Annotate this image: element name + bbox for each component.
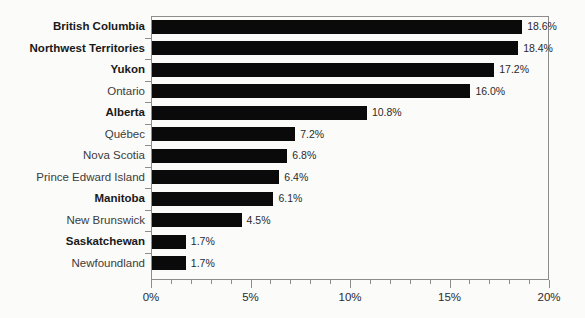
bar-value-label: 18.6%	[522, 16, 557, 38]
bar-row: Nova Scotia6.8%	[0, 145, 585, 167]
bar	[152, 235, 186, 249]
x-axis-minor-tick	[529, 280, 530, 284]
bar-value-label: 17.2%	[494, 59, 529, 81]
category-label: Yukon	[0, 59, 145, 81]
x-axis-minor-tick	[211, 280, 212, 284]
x-axis-tick-label: 0%	[143, 291, 160, 303]
bar-value-label: 6.4%	[279, 167, 308, 189]
x-axis-major-tick	[251, 280, 252, 288]
x-axis-minor-tick	[489, 280, 490, 284]
bar-row: Prince Edward Island6.4%	[0, 167, 585, 189]
x-axis-minor-tick	[171, 280, 172, 284]
bar-row: British Columbia18.6%	[0, 16, 585, 38]
bar-row: Northwest Territories18.4%	[0, 38, 585, 60]
category-label: Northwest Territories	[0, 38, 145, 60]
bar-row: Ontario16.0%	[0, 81, 585, 103]
x-axis-minor-tick	[469, 280, 470, 284]
bar	[152, 213, 242, 227]
x-axis-minor-tick	[390, 280, 391, 284]
category-label: New Brunswick	[0, 210, 145, 232]
bar-row: New Brunswick4.5%	[0, 210, 585, 232]
x-axis-minor-tick	[270, 280, 271, 284]
bar-value-label: 4.5%	[242, 210, 271, 232]
bar-row: Saskatchewan1.7%	[0, 231, 585, 253]
bar-row: Yukon17.2%	[0, 59, 585, 81]
bar	[152, 84, 470, 98]
x-axis-minor-tick	[330, 280, 331, 284]
category-label: Alberta	[0, 102, 145, 124]
bar-row: Alberta10.8%	[0, 102, 585, 124]
bar-value-label: 6.8%	[287, 145, 316, 167]
x-axis-tick-label: 15%	[438, 291, 461, 303]
bar-value-label: 1.7%	[186, 253, 215, 275]
category-label: British Columbia	[0, 16, 145, 38]
category-label: Ontario	[0, 81, 145, 103]
bar	[152, 20, 522, 34]
x-axis-minor-tick	[310, 280, 311, 284]
x-axis-major-tick	[450, 280, 451, 288]
bar	[152, 170, 279, 184]
category-label: Prince Edward Island	[0, 167, 145, 189]
x-axis: 0%5%10%15%20%	[151, 280, 549, 318]
category-label: Saskatchewan	[0, 231, 145, 253]
category-label: Québec	[0, 124, 145, 146]
x-axis-major-tick	[549, 280, 550, 288]
bar-rows: British Columbia18.6%Northwest Territori…	[0, 16, 585, 280]
category-label: Nova Scotia	[0, 145, 145, 167]
x-axis-major-tick	[350, 280, 351, 288]
bar-value-label: 1.7%	[186, 231, 215, 253]
bar	[152, 127, 295, 141]
x-axis-minor-tick	[191, 280, 192, 284]
x-axis-major-tick	[151, 280, 152, 288]
x-axis-minor-tick	[410, 280, 411, 284]
x-axis-tick-label: 5%	[242, 291, 259, 303]
bar-row: Manitoba6.1%	[0, 188, 585, 210]
bar	[152, 41, 518, 55]
bar-value-label: 7.2%	[295, 124, 324, 146]
x-axis-tick-label: 20%	[537, 291, 560, 303]
x-axis-minor-tick	[370, 280, 371, 284]
bar-value-label: 16.0%	[470, 81, 505, 103]
bar	[152, 192, 273, 206]
bar	[152, 63, 494, 77]
x-axis-minor-tick	[231, 280, 232, 284]
x-axis-minor-tick	[290, 280, 291, 284]
bar-value-label: 10.8%	[367, 102, 402, 124]
x-axis-tick-label: 10%	[338, 291, 361, 303]
bar-value-label: 18.4%	[518, 38, 553, 60]
bar-row: Newfoundland1.7%	[0, 253, 585, 275]
x-axis-minor-tick	[509, 280, 510, 284]
category-label: Newfoundland	[0, 253, 145, 275]
bar-value-label: 6.1%	[273, 188, 302, 210]
bar	[152, 149, 287, 163]
bar-row: Québec7.2%	[0, 124, 585, 146]
bar	[152, 106, 367, 120]
x-axis-minor-tick	[430, 280, 431, 284]
bar	[152, 256, 186, 270]
category-label: Manitoba	[0, 188, 145, 210]
horizontal-bar-chart: British Columbia18.6%Northwest Territori…	[0, 0, 585, 318]
